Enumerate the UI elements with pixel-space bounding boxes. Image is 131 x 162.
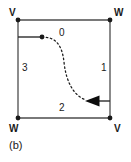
vertex-label-top-right: W — [114, 8, 123, 18]
vertex-dot-top-right — [108, 18, 113, 23]
edge-label-right: 1 — [101, 63, 107, 73]
edge-label-bottom: 2 — [59, 103, 65, 113]
arrowhead-left-icon — [85, 96, 100, 107]
vertex-label-bottom-right: V — [114, 124, 121, 134]
edge-label-left: 3 — [22, 63, 28, 73]
edge-label-top: 0 — [59, 28, 65, 38]
dashed-s-curve — [42, 37, 86, 100]
vertex-dot-top-left — [16, 18, 21, 23]
figure-caption: (b) — [9, 140, 22, 151]
vertex-dot-bottom-right — [108, 116, 113, 121]
vertex-dot-bottom-left — [16, 116, 21, 121]
vertex-label-top-left: V — [9, 8, 16, 18]
vertex-label-bottom-left: W — [9, 124, 18, 134]
start-dot — [40, 35, 45, 40]
figure-panel-b: V W W V 0 1 2 3 (b) — [0, 0, 131, 162]
diagram-canvas — [0, 0, 131, 162]
